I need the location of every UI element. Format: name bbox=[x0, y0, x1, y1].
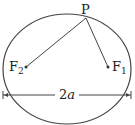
ellipse-svg: P F2 F1 2a bbox=[0, 0, 135, 125]
focus-1-dot bbox=[107, 66, 110, 69]
arrow-right-icon bbox=[126, 93, 130, 97]
focus-2-dot bbox=[25, 66, 28, 69]
major-axis-label: 2a bbox=[59, 87, 75, 102]
focus-1-label: F1 bbox=[112, 59, 127, 76]
segment-p-f1 bbox=[86, 18, 108, 67]
segment-p-f2 bbox=[26, 18, 86, 67]
arrow-left-icon bbox=[4, 93, 8, 97]
ellipse-diagram: P F2 F1 2a bbox=[0, 0, 135, 125]
focus-2-label: F2 bbox=[9, 59, 24, 76]
point-p-label: P bbox=[81, 2, 90, 17]
